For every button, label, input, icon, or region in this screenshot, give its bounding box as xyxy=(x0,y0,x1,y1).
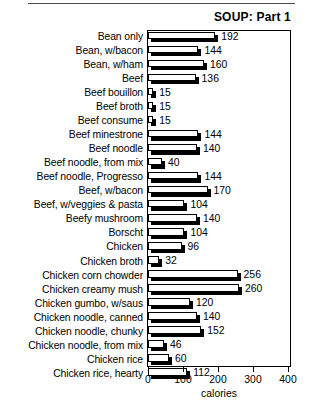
bar-body xyxy=(148,130,198,138)
bar-body xyxy=(148,228,184,236)
bar-value-label: 144 xyxy=(204,44,221,57)
bar-value-label: 136 xyxy=(202,72,219,85)
bar-body xyxy=(148,284,239,292)
category-label: Chicken rice xyxy=(0,353,143,366)
x-tick-label: 100 xyxy=(168,373,198,386)
bar xyxy=(148,32,218,43)
category-label: Chicken corn chowder xyxy=(0,269,143,282)
bar xyxy=(148,326,204,337)
bar-body xyxy=(148,326,201,334)
bar-body xyxy=(148,214,197,222)
bar-row: Chicken broth32 xyxy=(0,255,313,269)
bar-value-label: 15 xyxy=(159,114,171,127)
bar-body xyxy=(148,172,198,180)
bar-row: Borscht104 xyxy=(0,226,313,240)
bar-body xyxy=(148,60,204,68)
bar-body xyxy=(148,242,182,250)
bar-row: Beef bouillon15 xyxy=(0,86,313,100)
x-tick-label: 300 xyxy=(238,373,268,386)
category-label: Beef, w/bacon xyxy=(0,184,143,197)
bar-value-label: 144 xyxy=(204,128,221,141)
bar-value-label: 32 xyxy=(165,254,177,267)
bar-value-label: 15 xyxy=(159,100,171,113)
bar-row: Chicken gumbo, w/saus120 xyxy=(0,297,313,311)
bar-body xyxy=(148,32,215,40)
chart-title: SOUP: Part 1 xyxy=(214,10,291,24)
category-label: Beef xyxy=(0,72,143,85)
page-top-rule xyxy=(28,3,295,4)
bar-value-label: 260 xyxy=(245,282,262,295)
bar-value-label: 140 xyxy=(203,142,220,155)
bar-row: Bean, w/bacon144 xyxy=(0,44,313,58)
bar-row: Beef consume15 xyxy=(0,114,313,128)
category-label: Bean, w/bacon xyxy=(0,44,143,57)
bar xyxy=(148,298,193,309)
bar xyxy=(148,228,187,239)
category-label: Chicken gumbo, w/saus xyxy=(0,297,143,310)
category-label: Beef noodle, from mix xyxy=(0,156,143,169)
bar-body xyxy=(148,298,190,306)
bar-value-label: 152 xyxy=(207,324,224,337)
bar-row: Chicken corn chowder256 xyxy=(0,269,313,283)
bar xyxy=(148,200,187,211)
bar xyxy=(148,354,172,365)
x-tick xyxy=(253,367,254,372)
bar-row: Chicken noodle, chunky152 xyxy=(0,325,313,339)
bar-row: Beef noodle, Progresso144 xyxy=(0,170,313,184)
bar-value-label: 170 xyxy=(214,184,231,197)
bar-body xyxy=(148,158,162,166)
category-label: Bean only xyxy=(0,30,143,43)
category-label: Bean, w/ham xyxy=(0,58,143,71)
bar xyxy=(148,60,207,71)
bar xyxy=(148,144,200,155)
bar-body xyxy=(148,116,153,124)
bar xyxy=(148,214,200,225)
bar-value-label: 104 xyxy=(190,226,207,239)
bar xyxy=(148,312,200,323)
category-label: Beef bouillon xyxy=(0,86,143,99)
bar xyxy=(148,242,185,253)
bar-body xyxy=(148,354,169,362)
x-tick-label: 200 xyxy=(203,373,233,386)
bar-row: Beef noodle140 xyxy=(0,142,313,156)
bar-value-label: 144 xyxy=(204,170,221,183)
bar-row: Beef minestrone144 xyxy=(0,128,313,142)
bar-body xyxy=(148,46,198,54)
bar-value-label: 104 xyxy=(190,198,207,211)
category-label: Beef noodle, Progresso xyxy=(0,170,143,183)
bar-value-label: 120 xyxy=(196,296,213,309)
x-tick-label: 400 xyxy=(273,373,303,386)
bar-value-label: 40 xyxy=(168,156,180,169)
bar-row: Beef136 xyxy=(0,72,313,86)
bar-value-label: 15 xyxy=(159,86,171,99)
bar xyxy=(148,158,165,169)
bar-value-label: 96 xyxy=(188,240,200,253)
bar-rows: Bean only192Bean, w/bacon144Bean, w/ham1… xyxy=(0,30,313,381)
bar-body xyxy=(148,270,238,278)
bar-row: Chicken noodle, from mix46 xyxy=(0,339,313,353)
bar-body xyxy=(148,144,197,152)
bar xyxy=(148,130,201,141)
bar xyxy=(148,88,156,99)
bar-value-label: 256 xyxy=(244,268,261,281)
bar xyxy=(148,74,199,85)
bar-row: Beef broth15 xyxy=(0,100,313,114)
category-label: Beef, w/veggies & pasta xyxy=(0,198,143,211)
category-label: Beef consume xyxy=(0,114,143,127)
bar-row: Beef, w/veggies & pasta104 xyxy=(0,198,313,212)
bar xyxy=(148,186,211,197)
bar-value-label: 140 xyxy=(203,310,220,323)
chart-page: SOUP: Part 1 Bean only192Bean, w/bacon14… xyxy=(0,0,313,410)
bar-row: Bean, w/ham160 xyxy=(0,58,313,72)
category-label: Chicken noodle, from mix xyxy=(0,339,143,352)
bar-value-label: 192 xyxy=(221,30,238,43)
bar-body xyxy=(148,74,196,82)
bar xyxy=(148,340,167,351)
bar-body xyxy=(148,340,164,348)
x-tick xyxy=(288,367,289,372)
bar-body xyxy=(148,200,184,208)
bar-row: Chicken creamy mush260 xyxy=(0,283,313,297)
bar-row: Beefy mushroom140 xyxy=(0,212,313,226)
bar xyxy=(148,116,156,127)
bar-value-label: 160 xyxy=(210,58,227,71)
